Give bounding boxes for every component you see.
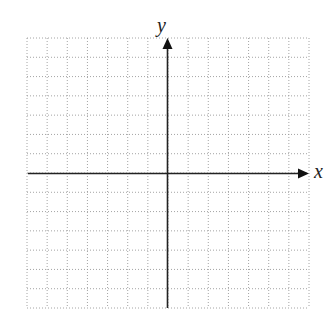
coordinate-plane <box>0 0 331 329</box>
y-axis-label: y <box>157 15 166 35</box>
axes <box>28 38 309 308</box>
x-axis-label: x <box>314 161 323 181</box>
x-axis-arrow-icon <box>298 169 309 179</box>
y-axis-arrow-icon <box>163 38 173 49</box>
